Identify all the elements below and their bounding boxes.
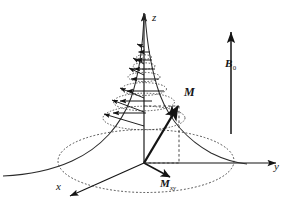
axis-x: [70, 163, 144, 196]
magnetization-relaxation-figure: [0, 0, 299, 212]
transverse-vector-label: Mxy: [160, 177, 176, 189]
spiral-segment: [104, 114, 144, 126]
spiral-segment: [137, 44, 144, 47]
magnetization-vector-M: [144, 106, 178, 163]
axis-x-label: x: [56, 180, 61, 192]
transverse-vector-Mxy: [144, 163, 170, 177]
transverse-vector-symbol: M: [160, 177, 170, 189]
axis-z-label: z: [152, 11, 156, 23]
axis-x-line: [70, 163, 144, 196]
funnel-left-envelope: [3, 14, 144, 176]
field-vector-subscript: 0: [233, 64, 236, 71]
magnetization-vector-label: M: [184, 85, 195, 100]
spiral-segment: [112, 100, 144, 112]
field-vector-label: B0: [225, 57, 236, 69]
field-vector-symbol: B: [225, 57, 232, 69]
transverse-vector-subscript: xy: [170, 184, 176, 191]
axis-y-label: y: [274, 160, 279, 172]
